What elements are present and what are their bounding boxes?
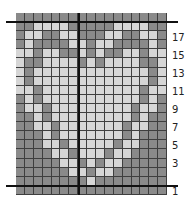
chart-cell xyxy=(69,168,78,177)
chart-cell xyxy=(43,68,52,77)
chart-cell xyxy=(114,159,123,168)
chart-cell xyxy=(140,159,149,168)
chart-cell xyxy=(132,77,141,86)
chart-cell xyxy=(132,86,141,95)
chart-cell xyxy=(158,131,167,140)
chart-cell xyxy=(60,95,69,104)
chart-cell xyxy=(132,49,141,58)
chart-cell xyxy=(52,113,61,122)
chart-cell xyxy=(34,86,43,95)
chart-cell xyxy=(25,31,34,40)
chart-cell xyxy=(43,113,52,122)
chart-cell xyxy=(114,58,123,67)
chart-cell xyxy=(149,159,158,168)
chart-cell xyxy=(87,113,96,122)
chart-cell xyxy=(52,122,61,131)
chart-cell xyxy=(158,104,167,113)
chart-cell xyxy=(16,77,25,86)
chart-cell xyxy=(34,40,43,49)
chart-cell xyxy=(43,186,52,195)
chart-cell xyxy=(96,159,105,168)
chart-cell xyxy=(114,86,123,95)
chart-cell xyxy=(25,159,34,168)
chart-cell xyxy=(60,159,69,168)
chart-cell xyxy=(96,140,105,149)
chart-cell xyxy=(16,49,25,58)
chart-cell xyxy=(34,95,43,104)
chart-cell xyxy=(149,113,158,122)
chart-cell xyxy=(105,122,114,131)
chart-cell xyxy=(114,149,123,158)
chart-cell xyxy=(52,49,61,58)
chart-cell xyxy=(60,104,69,113)
chart-cell xyxy=(96,131,105,140)
chart-cell xyxy=(123,86,132,95)
chart-cell xyxy=(105,131,114,140)
chart-cell xyxy=(78,77,87,86)
chart-cell xyxy=(16,86,25,95)
chart-cell xyxy=(158,168,167,177)
chart-cell xyxy=(60,113,69,122)
chart-cell xyxy=(87,22,96,31)
row-label: 5 xyxy=(172,141,178,151)
chart-cell xyxy=(114,40,123,49)
chart-cell xyxy=(87,140,96,149)
chart-cell xyxy=(52,40,61,49)
chart-cell xyxy=(132,122,141,131)
chart-cell xyxy=(87,168,96,177)
chart-cell xyxy=(158,149,167,158)
chart-cell xyxy=(114,113,123,122)
chart-cell xyxy=(158,58,167,67)
chart-cell xyxy=(123,140,132,149)
chart-cell xyxy=(149,186,158,195)
chart-cell xyxy=(140,77,149,86)
chart-cell xyxy=(105,113,114,122)
chart-cell xyxy=(149,58,158,67)
chart-cell xyxy=(52,186,61,195)
chart-cell xyxy=(43,40,52,49)
chart-cell xyxy=(43,22,52,31)
chart-cell xyxy=(69,49,78,58)
chart-cell xyxy=(140,168,149,177)
chart-cell xyxy=(132,140,141,149)
chart-cell xyxy=(123,31,132,40)
chart-cell xyxy=(105,31,114,40)
chart-cell xyxy=(105,95,114,104)
chart-cell xyxy=(16,104,25,113)
chart-cell xyxy=(123,159,132,168)
chart-cell xyxy=(105,86,114,95)
chart-cell xyxy=(132,113,141,122)
chart-cell xyxy=(114,22,123,31)
chart-cell xyxy=(25,58,34,67)
chart-cell xyxy=(16,140,25,149)
chart-cell xyxy=(43,149,52,158)
chart-cell xyxy=(105,58,114,67)
chart-cell xyxy=(25,22,34,31)
chart-cell xyxy=(52,149,61,158)
chart-cell xyxy=(34,140,43,149)
chart-cell xyxy=(25,131,34,140)
chart-cell xyxy=(132,149,141,158)
chart-cell xyxy=(149,40,158,49)
chart-cell xyxy=(96,22,105,31)
chart-cell xyxy=(16,159,25,168)
chart-cell xyxy=(78,149,87,158)
heart-chart-grid xyxy=(16,13,167,195)
chart-cell xyxy=(16,113,25,122)
chart-cell xyxy=(60,49,69,58)
chart-cell xyxy=(52,140,61,149)
chart-cell xyxy=(69,40,78,49)
chart-cell xyxy=(87,31,96,40)
chart-cell xyxy=(60,40,69,49)
chart-cell xyxy=(87,159,96,168)
chart-cell xyxy=(60,186,69,195)
chart-cell xyxy=(60,131,69,140)
chart-cell xyxy=(43,31,52,40)
chart-cell xyxy=(87,40,96,49)
chart-cell xyxy=(123,40,132,49)
chart-cell xyxy=(105,186,114,195)
row-label: 11 xyxy=(172,87,185,97)
chart-cell xyxy=(78,186,87,195)
chart-cell xyxy=(69,104,78,113)
chart-cell xyxy=(96,122,105,131)
